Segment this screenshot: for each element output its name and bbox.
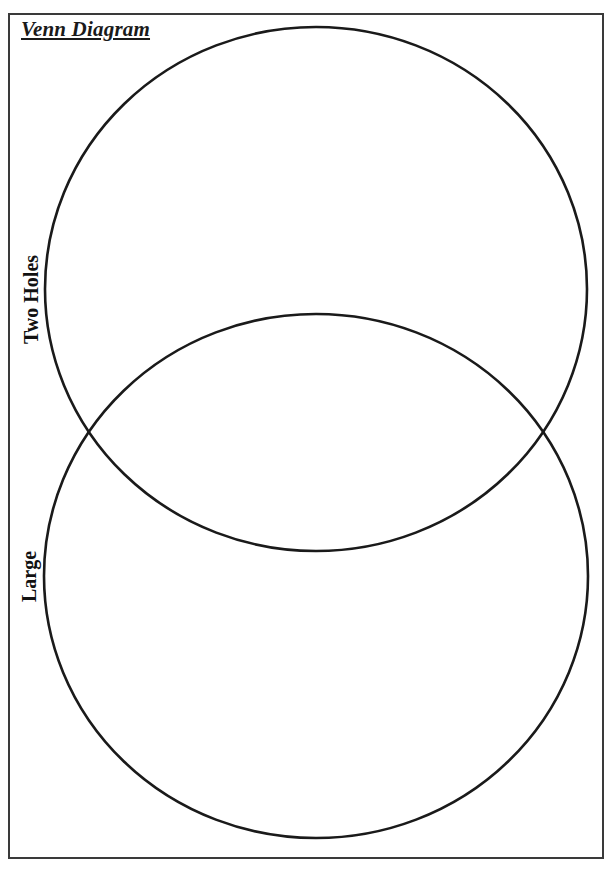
set-label-large: Large — [18, 551, 41, 602]
venn-circle-two-holes — [45, 27, 587, 551]
venn-diagram — [0, 0, 615, 872]
venn-circle-large — [44, 314, 588, 838]
set-label-two-holes: Two Holes — [20, 255, 43, 344]
